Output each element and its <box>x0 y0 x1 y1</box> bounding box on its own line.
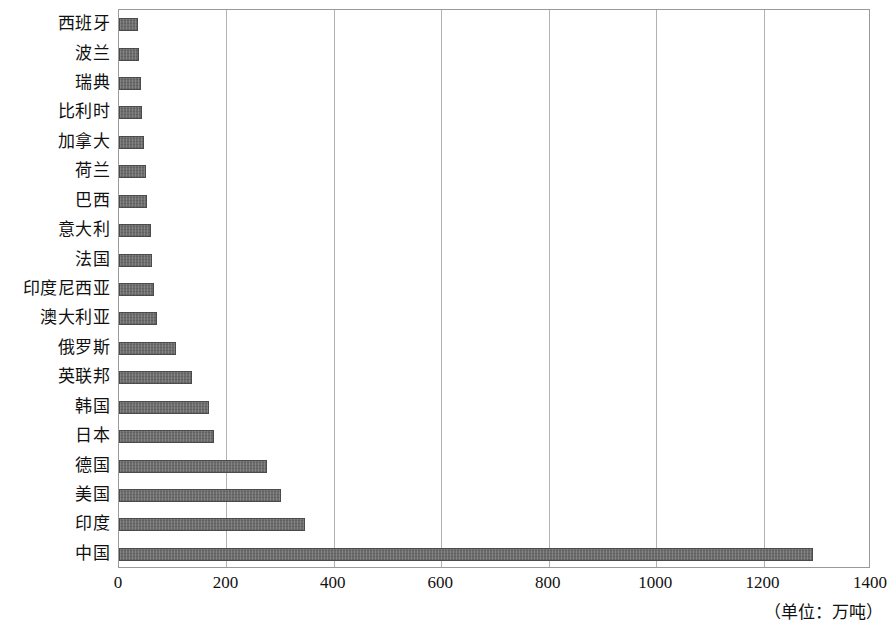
bar <box>119 518 305 531</box>
category-label: 印度尼西亚 <box>23 280 111 297</box>
bar <box>119 254 152 267</box>
bar <box>119 106 142 119</box>
x-tick-label: 1200 <box>733 574 793 591</box>
category-label: 巴西 <box>75 192 110 209</box>
bar <box>119 430 214 443</box>
category-label: 中国 <box>75 545 110 562</box>
bar <box>119 342 176 355</box>
category-label: 加拿大 <box>58 133 111 150</box>
category-label: 澳大利亚 <box>40 309 110 326</box>
bar <box>119 18 138 31</box>
bar <box>119 401 209 414</box>
x-tick-label: 800 <box>518 574 578 591</box>
category-label: 日本 <box>75 427 110 444</box>
x-tick-label: 600 <box>410 574 470 591</box>
category-axis-labels: 西班牙波兰瑞典比利时加拿大荷兰巴西意大利法国印度尼西亚澳大利亚俄罗斯英联邦韩国日… <box>0 9 114 568</box>
bar <box>119 195 147 208</box>
category-label: 荷兰 <box>75 162 110 179</box>
bar <box>119 283 154 296</box>
bar <box>119 312 157 325</box>
category-label: 英联邦 <box>58 368 111 385</box>
bar-series <box>119 10 869 567</box>
bar <box>119 165 146 178</box>
category-label: 德国 <box>75 457 110 474</box>
x-tick-label: 200 <box>195 574 255 591</box>
bar <box>119 48 139 61</box>
bar <box>119 224 151 237</box>
category-label: 比利时 <box>58 103 111 120</box>
category-label: 印度 <box>75 515 110 532</box>
plot-area <box>118 9 870 568</box>
category-label: 西班牙 <box>58 15 111 32</box>
category-label: 波兰 <box>75 45 110 62</box>
horizontal-bar-chart: 西班牙波兰瑞典比利时加拿大荷兰巴西意大利法国印度尼西亚澳大利亚俄罗斯英联邦韩国日… <box>0 0 889 633</box>
category-label: 法国 <box>75 251 110 268</box>
bar <box>119 548 813 561</box>
category-label: 韩国 <box>75 398 110 415</box>
bar <box>119 371 192 384</box>
bar <box>119 489 281 502</box>
category-label: 美国 <box>75 486 110 503</box>
bar <box>119 77 141 90</box>
x-tick-label: 400 <box>303 574 363 591</box>
category-label: 意大利 <box>58 221 111 238</box>
x-tick-label: 0 <box>88 574 148 591</box>
category-label: 瑞典 <box>75 74 110 91</box>
bar <box>119 460 267 473</box>
unit-note: （单位：万吨） <box>764 604 883 621</box>
bar <box>119 136 144 149</box>
category-label: 俄罗斯 <box>58 339 111 356</box>
x-tick-label: 1000 <box>625 574 685 591</box>
x-tick-label: 1400 <box>840 574 889 591</box>
